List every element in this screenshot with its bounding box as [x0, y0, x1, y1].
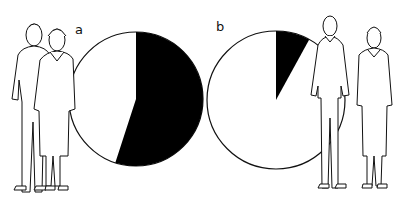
- panel-label-a: a: [75, 22, 83, 37]
- man-figure-short: [357, 27, 392, 188]
- panel-label-b: b: [216, 19, 224, 34]
- figure-canvas: a b: [0, 0, 410, 202]
- pie-chart-a: [69, 32, 203, 166]
- two-men-illustration: [311, 16, 392, 188]
- couple-illustration: [12, 24, 75, 192]
